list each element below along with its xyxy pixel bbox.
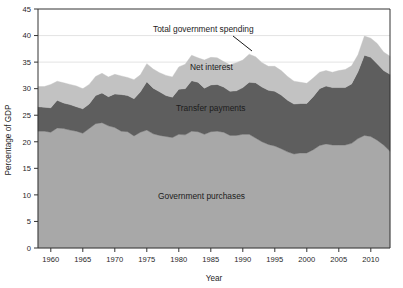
x-tick-label-1975: 1975 (138, 255, 155, 264)
y-axis-ticks (34, 9, 38, 248)
y-tick-label-45: 45 (23, 5, 31, 14)
annotation-label-net-interest: Net interest (190, 62, 233, 72)
y-tick-label-0: 0 (27, 244, 31, 253)
annotation-label-government-purchases: Government purchases (158, 191, 245, 201)
y-tick-label-20: 20 (23, 138, 31, 147)
x-tick-label-1980: 1980 (170, 255, 187, 264)
x-axis-ticks (51, 248, 371, 252)
y-axis-title: Percentage of GDP (4, 104, 13, 176)
x-tick-label-2010: 2010 (362, 255, 379, 264)
y-tick-label-30: 30 (23, 84, 31, 93)
x-tick-label-1965: 1965 (74, 255, 91, 264)
y-axis-tick-labels: 051015202530354045 (23, 5, 31, 253)
x-tick-label-2005: 2005 (330, 255, 347, 264)
x-axis-tick-labels: 1960196519701975198019851990199520002005… (42, 255, 379, 264)
x-tick-label-1970: 1970 (106, 255, 123, 264)
y-tick-label-40: 40 (23, 31, 31, 40)
stacked-area-chart: 051015202530354045 196019651970197519801… (0, 0, 403, 288)
x-tick-label-1990: 1990 (234, 255, 251, 264)
x-tick-label-1985: 1985 (202, 255, 219, 264)
annotation-label-total-government-spending: Total government spending (153, 24, 254, 34)
x-tick-label-1960: 1960 (42, 255, 59, 264)
x-tick-label-2000: 2000 (298, 255, 315, 264)
x-axis-title: Year (206, 274, 223, 283)
y-tick-label-25: 25 (23, 111, 31, 120)
annotation-label-transfer-payments: Transfer payments (176, 103, 246, 113)
chart-container: 051015202530354045 196019651970197519801… (0, 0, 403, 288)
y-tick-label-10: 10 (23, 191, 31, 200)
y-tick-label-35: 35 (23, 58, 31, 67)
x-tick-label-1995: 1995 (266, 255, 283, 264)
y-tick-label-15: 15 (23, 164, 31, 173)
y-tick-label-5: 5 (27, 217, 31, 226)
